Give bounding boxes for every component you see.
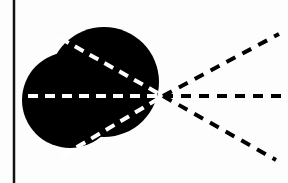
outer-ray-upper <box>163 34 279 96</box>
ray-diagram <box>0 0 288 183</box>
diagram-canvas <box>0 0 288 183</box>
lobe-circle <box>49 27 159 137</box>
outer-black-dashed-rays <box>163 34 288 160</box>
black-blob-shape <box>22 27 159 148</box>
outer-ray-lower <box>163 96 276 160</box>
